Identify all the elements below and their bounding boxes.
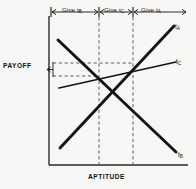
band-label-give-tc-sub: C: [121, 9, 124, 14]
band-label-give-tb-sub: B: [79, 9, 82, 14]
curve-label-ta: tA: [175, 24, 180, 32]
band-label-give-tb: Give tB: [62, 7, 82, 14]
curve-label-tb: tB: [178, 152, 183, 160]
band-label-give-tc-text: Give t: [104, 6, 121, 13]
band-label-give-ta-sub: A: [158, 9, 161, 14]
payoff-gap-bracket: [47, 62, 53, 77]
band-label-give-ta-text: Give t: [141, 6, 158, 13]
x-axis-title: APTITUDE: [88, 174, 125, 181]
band-label-give-tc: Give tC: [104, 7, 124, 14]
chart-plot-area: [0, 0, 196, 189]
curve-label-tb-sub: B: [180, 154, 183, 159]
band-label-give-ta: Give tA: [141, 7, 161, 14]
band-label-give-tb-text: Give t: [62, 6, 79, 13]
curve-label-tc-sub: C: [178, 61, 181, 66]
curve-label-tc: tC: [176, 59, 181, 67]
curve-label-ta-sub: A: [177, 26, 180, 31]
vertical-dashed-guides: [99, 17, 133, 164]
curve-tc-line: [59, 62, 176, 88]
curve-tb-line: [58, 40, 176, 152]
y-axis-title: PAYOFF: [3, 63, 32, 70]
curve-ta-line: [60, 26, 174, 148]
payoff-aptitude-chart: PAYOFF APTITUDE Give tB Give tC Give tA …: [0, 0, 196, 189]
